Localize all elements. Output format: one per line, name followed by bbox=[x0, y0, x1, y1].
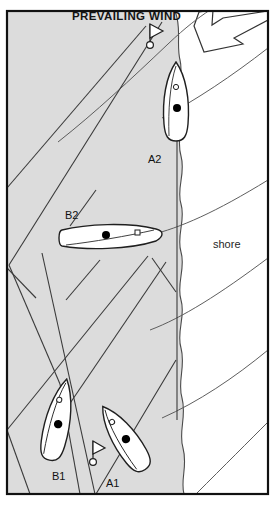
bottom-buoy-float bbox=[90, 459, 97, 466]
boat-b1-label: B1 bbox=[52, 470, 65, 482]
shore-label: shore bbox=[213, 238, 241, 250]
sailing-diagram: A2 B2 B1 bbox=[0, 0, 278, 505]
boat-b2-crew-dot bbox=[102, 231, 110, 239]
boat-a2-crew-dot bbox=[173, 104, 181, 112]
boat-a2-bow-marker bbox=[173, 84, 178, 89]
boat-b2-bow-marker bbox=[135, 230, 140, 235]
boat-a2-label: A2 bbox=[148, 153, 161, 165]
boat-b2-label: B2 bbox=[65, 209, 78, 221]
boat-a1-label: A1 bbox=[106, 477, 119, 489]
diagram-root: A2 B2 B1 bbox=[0, 0, 278, 505]
top-buoy-float bbox=[147, 42, 154, 49]
shore-landmass bbox=[175, 11, 268, 494]
boat-b1-bow-marker bbox=[56, 397, 62, 403]
